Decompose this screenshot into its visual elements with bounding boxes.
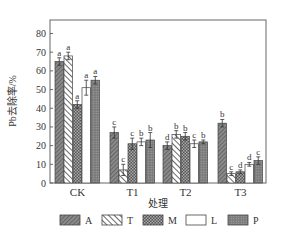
bar-a-ck <box>55 62 64 183</box>
bar-group-t3: bcddc <box>218 109 263 183</box>
bar-l-t2 <box>190 144 199 183</box>
y-axis: 01020304050607080 <box>36 28 53 189</box>
significance-letter: a <box>57 48 61 58</box>
legend-swatch <box>143 215 163 225</box>
legend-label: T <box>127 215 133 226</box>
significance-letter: d <box>165 132 170 142</box>
y-axis-label: Pb去除率/% <box>6 75 18 127</box>
legend-item-p: P <box>228 215 259 226</box>
bar-t-t2 <box>172 134 181 183</box>
y-tick-label: 60 <box>36 65 46 76</box>
significance-letter: c <box>121 154 125 164</box>
bar-t-ck <box>64 56 73 183</box>
legend-label: M <box>168 215 177 226</box>
legend-item-t: T <box>102 215 133 226</box>
bar-group-t1: cccbb <box>110 117 155 183</box>
significance-letter: b <box>174 121 179 131</box>
x-tick-label: CK <box>70 186 85 198</box>
y-tick-label: 0 <box>41 178 46 189</box>
significance-letter: c <box>192 130 196 140</box>
x-tick-label: T1 <box>126 186 138 198</box>
legend-item-l: L <box>186 215 217 226</box>
y-tick-label: 40 <box>36 103 46 114</box>
y-tick-label: 30 <box>36 121 46 132</box>
significance-letter: a <box>93 66 97 76</box>
bar-l-t1 <box>137 142 146 183</box>
y-tick-label: 20 <box>36 140 46 151</box>
significance-letter: c <box>229 162 233 172</box>
significance-letter: a <box>75 91 79 101</box>
bar-groups: aaaaacccbbdbbcbbcddc <box>55 42 263 183</box>
bar-a-t1 <box>110 133 119 183</box>
legend: ATMLP <box>60 215 259 226</box>
y-tick-label: 70 <box>36 47 46 58</box>
significance-letter: b <box>148 123 153 133</box>
significance-letter: d <box>238 160 243 170</box>
significance-letter: b <box>139 128 144 138</box>
x-tick-label: T3 <box>234 186 247 198</box>
significance-letter: b <box>201 130 206 140</box>
bar-a-t3 <box>218 123 227 183</box>
legend-swatch <box>186 215 206 225</box>
legend-item-m: M <box>143 215 177 226</box>
legend-swatch <box>228 215 248 225</box>
significance-letter: a <box>66 42 70 52</box>
legend-label: P <box>253 215 259 226</box>
bar-p-ck <box>91 80 100 183</box>
significance-letter: c <box>130 128 134 138</box>
x-axis: CKT1T2T3 <box>70 186 247 198</box>
bar-group-ck: aaaaa <box>55 42 100 183</box>
legend-swatch <box>60 215 80 225</box>
y-tick-label: 10 <box>36 159 46 170</box>
legend-item-a: A <box>60 215 93 226</box>
legend-label: A <box>85 215 93 226</box>
bar-group-t2: dbbcb <box>163 121 208 183</box>
bar-a-t2 <box>163 146 172 183</box>
significance-letter: d <box>247 152 252 162</box>
y-tick-label: 50 <box>36 84 46 95</box>
y-tick-label: 80 <box>36 28 46 39</box>
significance-letter: a <box>84 70 88 80</box>
bar-l-t3 <box>245 164 254 183</box>
x-tick-label: T2 <box>179 186 191 198</box>
significance-letter: b <box>220 109 225 119</box>
x-axis-label: 处理 <box>148 198 168 209</box>
significance-letter: c <box>112 117 116 127</box>
bar-p-t2 <box>199 142 208 183</box>
bar-m-t2 <box>181 136 190 183</box>
significance-letter: b <box>183 123 188 133</box>
significance-letter: c <box>256 147 260 157</box>
bar-m-ck <box>73 105 82 183</box>
bar-l-ck <box>82 88 91 183</box>
legend-swatch <box>102 215 122 225</box>
bar-chart: 01020304050607080 aaaaacccbbdbbcbbcddc C… <box>0 0 281 242</box>
legend-label: L <box>211 215 217 226</box>
